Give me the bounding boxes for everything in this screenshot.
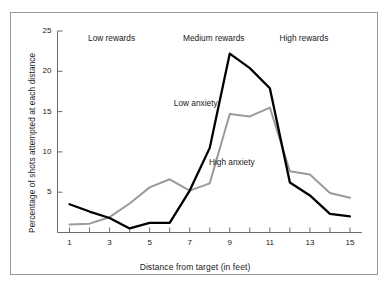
y-tick-label: 15 (22, 107, 52, 116)
y-tick-label: 20 (22, 66, 52, 75)
x-tick-label: 5 (135, 238, 165, 247)
x-tick-label: 1 (55, 238, 85, 247)
x-tick-label: 9 (215, 238, 245, 247)
figure: Percentage of shots attempted at each di… (0, 0, 390, 291)
x-axis-label: Distance from target (in feet) (0, 262, 390, 272)
x-tick-label: 15 (335, 238, 365, 247)
medium-rewards: Medium rewards (169, 33, 259, 43)
low-anxiety-label: Low anxiety (151, 98, 241, 108)
x-tick-label: 7 (175, 238, 205, 247)
chart-plot-area (0, 0, 390, 291)
x-tick-label: 11 (255, 238, 285, 247)
x-tick-label: 13 (295, 238, 325, 247)
series-line-low-anxiety (70, 54, 350, 229)
low-rewards: Low rewards (67, 33, 157, 43)
y-axis-label: Percentage of shots attempted at each di… (27, 53, 37, 233)
high-rewards: High rewards (259, 33, 349, 43)
high-anxiety-label: High anxiety (187, 157, 277, 167)
y-tick-label: 25 (22, 26, 52, 35)
y-tick-label: 10 (22, 147, 52, 156)
y-tick-label: 5 (22, 187, 52, 196)
x-tick-label: 3 (95, 238, 125, 247)
